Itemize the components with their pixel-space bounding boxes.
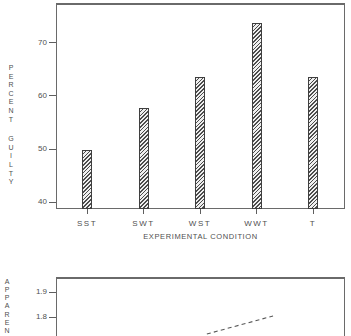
bar-swt <box>139 108 149 209</box>
figure-canvas: PERCENTGUILTY 70605040SSTSWTWSTWWTT EXPE… <box>0 0 351 336</box>
dashed-line-segment <box>207 316 273 334</box>
bar-wst <box>195 77 205 209</box>
bar-t <box>308 77 318 209</box>
bar-sst <box>82 150 92 209</box>
dashed-trend-line <box>0 0 351 336</box>
bar-wwt <box>252 23 262 209</box>
